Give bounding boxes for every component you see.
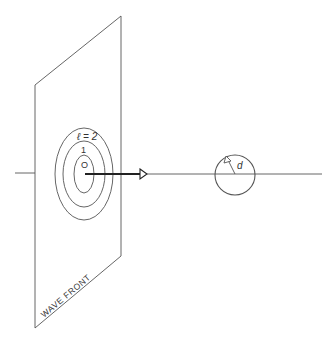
wave-front-label: WAVE FRONT <box>39 272 93 319</box>
radius-label: d <box>237 160 243 171</box>
wave-front-diagram: ℓ = 2 1 O d WAVE FRONT <box>0 0 335 343</box>
arrowhead-icon <box>140 169 147 179</box>
aperture-circle <box>215 155 255 195</box>
zone-label-l2: ℓ = 2 <box>76 131 98 142</box>
zone-label-l1: 1 <box>81 145 86 155</box>
zone-label-l0: O <box>81 160 88 170</box>
radius-arrow-shaft <box>228 160 235 174</box>
